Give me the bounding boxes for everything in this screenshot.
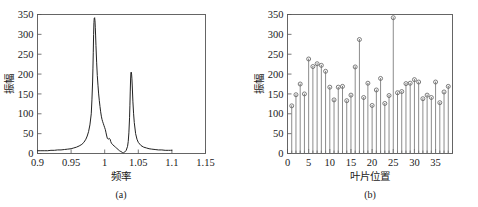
panel-b-caption: (b) — [364, 189, 376, 201]
data-point-center — [346, 100, 347, 101]
panel-a-plot: 050100150200250300350 0.90.9511.051.11.1… — [0, 0, 239, 207]
panel-b-y-tick-label: 200 — [268, 69, 284, 80]
panel-b-y-tick-label: 350 — [268, 9, 284, 20]
panel-a-y-tick-label: 250 — [18, 49, 34, 60]
panel-a-x-axis-label: 频率 — [111, 170, 131, 182]
data-point-center — [325, 71, 326, 72]
data-point-center — [300, 83, 301, 84]
data-point-center — [431, 97, 432, 98]
panel-a-axes-frame — [38, 15, 206, 154]
data-point-center — [439, 102, 440, 103]
panel-b-y-axis-label: 振幅 — [253, 74, 265, 94]
panel-a-x-tick-label: 1.15 — [196, 157, 214, 168]
data-point-center — [443, 91, 444, 92]
data-point-center — [418, 81, 419, 82]
data-point-center — [321, 65, 322, 66]
panel-b-x-tick-label: 15 — [346, 157, 357, 168]
data-point-center — [376, 89, 377, 90]
panel-a-y-tick-label: 300 — [18, 29, 34, 40]
data-point-center — [304, 93, 305, 94]
panel-a-x-tick-label: 0.9 — [31, 157, 44, 168]
data-point-center — [363, 97, 364, 98]
figure-container: 050100150200250300350 0.90.9511.051.11.1… — [0, 0, 478, 207]
panel-b-y-tick-label: 100 — [268, 108, 284, 119]
data-point-center — [333, 99, 334, 100]
panel-b-y-tick-label: 0 — [278, 148, 283, 159]
panel-a-x-tick-label: 1 — [102, 157, 107, 168]
data-point-center — [308, 58, 309, 59]
panel-a-x-tick-label: 1.1 — [165, 157, 178, 168]
data-point-center — [295, 94, 296, 95]
data-point-center — [372, 105, 373, 106]
data-point-center — [329, 87, 330, 88]
data-point-center — [384, 103, 385, 104]
panel-a-x-tick-label: 0.95 — [62, 157, 80, 168]
data-point-center — [355, 66, 356, 67]
data-point-center — [359, 39, 360, 40]
data-point-center — [397, 92, 398, 93]
panel-b-y-tick-label: 300 — [268, 29, 284, 40]
panel-a-y-axis-label: 振幅 — [3, 74, 15, 94]
data-point-center — [393, 17, 394, 18]
data-point-center — [338, 87, 339, 88]
panel-b-y-tick-label: 250 — [268, 49, 284, 60]
panel-b-x-tick-label: 25 — [388, 157, 399, 168]
data-point-center — [448, 86, 449, 87]
data-point-center — [422, 98, 423, 99]
data-point-center — [405, 83, 406, 84]
marker-group — [290, 16, 451, 108]
data-point-center — [435, 81, 436, 82]
panel-b-x-axis-label: 叶片位置 — [350, 170, 390, 182]
data-point-center — [291, 105, 292, 106]
panel-b-x-tick-label: 0 — [285, 157, 290, 168]
panel-a-y-tick-label: 200 — [18, 69, 34, 80]
panel-a-y-tick-label: 150 — [18, 89, 34, 100]
panel-b-y-tick-label: 50 — [273, 128, 284, 139]
panel-b-x-tick-label: 20 — [367, 157, 378, 168]
panel-a-y-tick-label: 350 — [18, 9, 34, 20]
panel-a: 050100150200250300350 0.90.9511.051.11.1… — [0, 0, 239, 207]
panel-b-x-tick-label: 35 — [430, 157, 441, 168]
panel-a-x-tick-label: 1.05 — [129, 157, 147, 168]
data-point-center — [427, 95, 428, 96]
data-point-center — [380, 78, 381, 79]
data-point-center — [350, 95, 351, 96]
stem-group — [292, 18, 449, 154]
data-point-center — [388, 95, 389, 96]
panel-a-y-tick-label: 100 — [18, 108, 34, 119]
frequency-response-curve — [38, 18, 172, 153]
panel-b: 050100150200250300350 05101520253035 振幅 … — [239, 0, 478, 207]
data-point-center — [410, 83, 411, 84]
panel-b-plot: 050100150200250300350 05101520253035 振幅 … — [239, 0, 478, 207]
panel-b-y-tick-label: 150 — [268, 89, 284, 100]
data-point-center — [367, 83, 368, 84]
data-point-center — [317, 63, 318, 64]
data-point-center — [401, 91, 402, 92]
panel-a-y-tick-label: 50 — [23, 128, 34, 139]
panel-b-x-tick-label: 30 — [409, 157, 420, 168]
data-point-center — [414, 79, 415, 80]
panel-a-caption: (a) — [115, 189, 126, 201]
panel-b-x-tick-label: 5 — [306, 157, 311, 168]
data-point-center — [342, 86, 343, 87]
data-point-center — [312, 66, 313, 67]
panel-b-x-tick-label: 10 — [325, 157, 336, 168]
